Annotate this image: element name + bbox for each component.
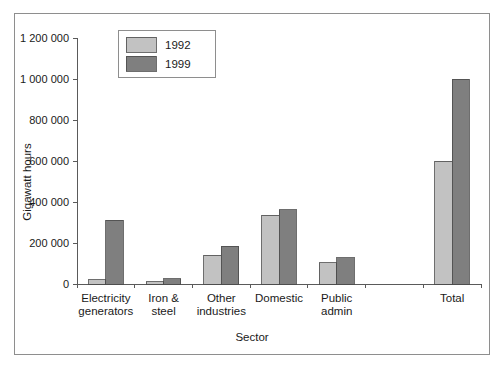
y-axis-title: Gigawatt hours — [21, 143, 33, 221]
legend-label-1999: 1999 — [165, 58, 191, 70]
y-tick-label: 600 000 — [29, 155, 69, 167]
x-category-label: Electricity — [81, 292, 130, 304]
bar-1999-2 — [221, 246, 238, 284]
figure-frame: 0200 000400 000600 000800 0001 000 0001 … — [14, 13, 490, 355]
bar-1992-4 — [319, 263, 336, 284]
x-category-label: industries — [197, 305, 246, 317]
chart-legend: 19921999 — [118, 30, 215, 77]
bar-1992-6 — [435, 161, 452, 284]
bar-chart: 0200 000400 000600 000800 0001 000 0001 … — [15, 14, 489, 354]
x-category-label: Iron & — [148, 292, 179, 304]
legend-swatch-1992 — [126, 37, 156, 52]
x-category-label: Total — [440, 292, 464, 304]
x-category-label: steel — [151, 305, 175, 317]
x-category-label: generators — [78, 305, 133, 317]
x-category-label: admin — [321, 305, 352, 317]
y-tick-label: 200 000 — [29, 237, 69, 249]
y-tick-label: 400 000 — [29, 196, 69, 208]
x-category-label: Public — [321, 292, 353, 304]
bar-1999-3 — [279, 210, 296, 284]
x-category-label: Other — [207, 292, 236, 304]
legend-swatch-1999 — [126, 56, 156, 71]
bar-1999-6 — [452, 79, 469, 284]
bar-1999-0 — [106, 220, 123, 284]
y-tick-label: 1 200 000 — [20, 32, 69, 44]
bar-1992-1 — [146, 282, 163, 284]
y-tick-label: 800 000 — [29, 114, 69, 126]
y-tick-label: 0 — [63, 278, 69, 290]
bar-1992-3 — [262, 215, 279, 284]
bar-1999-4 — [337, 258, 354, 284]
bar-1992-0 — [89, 280, 106, 284]
y-tick-label: 1 000 000 — [20, 73, 69, 85]
bar-1999-1 — [164, 279, 181, 284]
x-category-label: Domestic — [255, 292, 303, 304]
x-axis-title: Sector — [235, 331, 268, 343]
bar-1992-2 — [204, 255, 221, 284]
legend-label-1992: 1992 — [165, 39, 191, 51]
